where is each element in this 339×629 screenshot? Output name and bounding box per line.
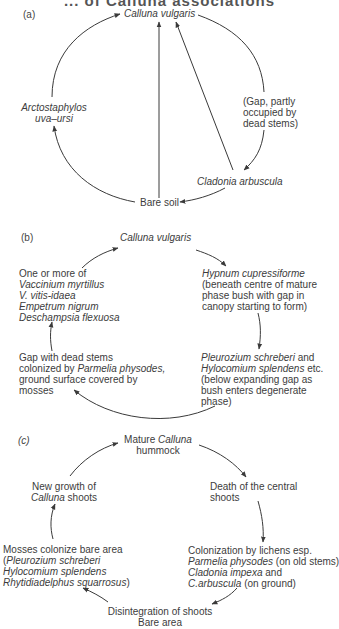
node-b-left-line4: Empetrum nigrum: [19, 301, 120, 312]
node-b-left-line3: V. vitis-idaea: [19, 290, 120, 301]
node-c-mosses-line4: Rhytidiadelphus squarrosus): [3, 577, 130, 588]
arrow-b-hypnum-to-pleuro: [258, 313, 260, 349]
arrow-c-new-to-mature: [70, 443, 118, 476]
node-c-mosses-line2-species: Pleurozium schreberi: [6, 555, 100, 566]
node-c-lichens: Colonization by lichens esp. Parmelia ph…: [188, 545, 339, 589]
node-b-gap-dead-stems: Gap with dead stems colonized by Parmeli…: [19, 352, 165, 396]
node-b-one-or-more: One or more of Vaccinium myrtillus V. vi…: [19, 268, 120, 323]
node-b-pleuro-line4: bush enters degenerate: [201, 385, 323, 396]
node-c-death-line2: shoots: [210, 492, 297, 503]
node-c-disint-line1: Disintegration of shoots: [100, 606, 220, 617]
node-c-new-line2: Calluna shoots: [28, 492, 100, 503]
panel-label-b: (b): [21, 232, 33, 243]
node-c-disint-line2: Bare area: [100, 617, 220, 628]
node-c-lichens-line3-species: Cladonia impexa: [188, 567, 263, 578]
node-c-mature-line1: Mature Calluna: [122, 434, 194, 445]
node-c-mosses-line1: Mosses colonize bare area: [3, 544, 130, 555]
node-b-pleuro-line2-species: Hylocomium splendens: [201, 363, 304, 374]
panel-label-a: (a): [23, 9, 35, 20]
node-b-gap-line3: ground surface covered by: [19, 374, 165, 385]
node-b-pleuro-line2: Hylocomium splendens etc.: [201, 363, 323, 374]
node-a-gap-line1: (Gap, partly: [243, 96, 298, 107]
node-c-new-line2-species: Calluna: [31, 492, 65, 503]
node-c-lichens-line2: Parmelia physodes (on old stems): [188, 556, 339, 567]
node-c-death-line1: Death of the central: [210, 481, 297, 492]
node-b-pleuro-line1-rest: and: [295, 352, 314, 363]
node-c-mosses: Mosses colonize bare area (Pleurozium sc…: [3, 544, 130, 588]
node-c-mosses-line3: Hylocomium splendens: [3, 566, 130, 577]
node-c-disintegration: Disintegration of shoots Bare area: [100, 606, 220, 628]
node-b-pleuro-line3: (below expanding gap as: [201, 374, 323, 385]
node-b-left-line5: Deschampsia flexuosa: [19, 312, 120, 323]
node-b-left-line1: One or more of: [19, 268, 120, 279]
node-c-lichens-line3: Cladonia impexa and: [188, 567, 339, 578]
node-b-pleuro-line2-rest: etc.: [304, 363, 323, 374]
arrow-a-gap-to-cladonia: [244, 130, 264, 170]
node-c-lichens-line1: Colonization by lichens esp.: [188, 545, 339, 556]
node-b-hypnum-line2: (beneath centre of mature: [202, 279, 317, 290]
node-b-hypnum-line4: canopy starting to form): [202, 301, 317, 312]
node-a-arctostaphylos-line1: Arctostaphylos: [20, 102, 88, 113]
arrow-a-arcto-to-calluna: [52, 14, 120, 97]
node-c-mosses-line4-paren: ): [126, 577, 129, 588]
arrow-c-lichens-to-disint: [212, 588, 237, 604]
node-a-arctostaphylos: Arctostaphylos uva–ursi: [20, 102, 88, 124]
node-c-mature-calluna: Mature Calluna hummock: [122, 434, 194, 456]
arrow-a-bare-to-arcto: [54, 126, 135, 202]
node-b-pleuro-line1: Pleurozium schreberi and: [201, 352, 323, 363]
node-c-death-central: Death of the central shoots: [210, 481, 297, 503]
node-a-gap-line2: occupied by: [243, 107, 298, 118]
panel-label-c: (c): [18, 435, 30, 446]
node-b-left-line2: Vaccinium myrtillus: [19, 279, 120, 290]
arrow-a-calluna-to-gap: [198, 15, 264, 92]
arrow-c-mature-to-death: [199, 445, 246, 477]
node-b-pleuro-line1-species: Pleurozium schreberi: [201, 352, 295, 363]
node-b-gap-line1: Gap with dead stems: [19, 352, 165, 363]
node-a-calluna-vulgaris: Calluna vulgaris: [124, 8, 195, 19]
arrow-b-calluna-to-hypnum: [196, 250, 226, 266]
arrow-b-gap-to-left: [51, 322, 53, 351]
node-c-lichens-line2-rest: (on old stems): [273, 556, 339, 567]
node-b-pleurozium: Pleurozium schreberi and Hylocomium sple…: [201, 352, 323, 407]
node-b-gap-line4: mosses: [19, 385, 165, 396]
node-a-gap-line3: dead stems): [243, 118, 298, 129]
node-b-hypnum-line3: phase bush with gap in: [202, 290, 317, 301]
node-a-bare-soil: Bare soil: [140, 197, 179, 208]
node-a-cladonia-arbuscula: Cladonia arbuscula: [197, 176, 283, 187]
node-a-arctostaphylos-line2: uva–ursi: [20, 113, 88, 124]
node-c-mature-species: Calluna: [158, 434, 192, 445]
arrow-a-cladonia-to-calluna: [176, 22, 233, 170]
node-c-new-line1: New growth of: [28, 481, 100, 492]
node-b-gap-line2-prefix: colonized by: [19, 363, 77, 374]
node-b-pleuro-line5: phase): [201, 396, 323, 407]
node-c-lichens-line4-species: C.arbuscula: [188, 578, 241, 589]
node-b-gap-line2-species: Parmelia physodes,: [77, 363, 165, 374]
node-c-new-line2-rest: shoots: [65, 492, 97, 503]
arrow-c-disint-to-mosses: [83, 588, 108, 602]
node-c-mature-prefix: Mature: [124, 434, 158, 445]
node-c-new-growth: New growth of Calluna shoots: [28, 481, 100, 503]
node-c-lichens-line2-species: Parmelia physodes: [188, 556, 273, 567]
arrow-c-mosses-to-new: [51, 504, 55, 539]
arrow-b-left-to-calluna: [82, 248, 118, 268]
node-b-hypnum: Hypnum cupressiforme (beneath centre of …: [202, 268, 317, 312]
node-b-calluna-vulgaris: Calluna vulgaris: [120, 232, 191, 243]
node-c-lichens-line4-rest: (on ground): [241, 578, 295, 589]
node-b-hypnum-line1: Hypnum cupressiforme: [202, 268, 317, 279]
arrow-c-death-to-lichens: [258, 501, 263, 542]
node-a-gap: (Gap, partly occupied by dead stems): [243, 96, 298, 129]
node-c-mosses-line4-species: Rhytidiadelphus squarrosus: [3, 577, 126, 588]
node-c-lichens-line3-rest: and: [263, 567, 282, 578]
arrow-a-cladonia-to-bare: [180, 188, 225, 202]
node-c-lichens-line4: C.arbuscula (on ground): [188, 578, 339, 589]
node-c-mature-line2: hummock: [122, 445, 194, 456]
node-c-mosses-line2: (Pleurozium schreberi: [3, 555, 130, 566]
calluna-cycle-diagrams: ... of Calluna associations: [0, 0, 339, 629]
node-b-gap-line2: colonized by Parmelia physodes,: [19, 363, 165, 374]
